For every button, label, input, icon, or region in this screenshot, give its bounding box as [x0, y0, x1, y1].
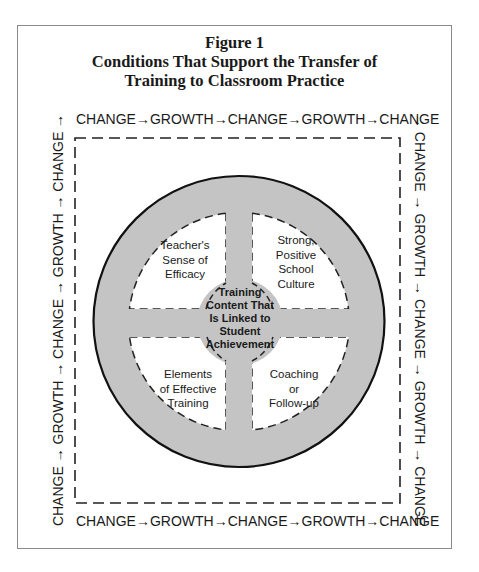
quadrant-label-bottom-left: Elements of Effective Training	[150, 367, 226, 411]
label-line: School	[263, 262, 329, 277]
label-line: Elements	[150, 367, 226, 382]
label-line: Sense of	[150, 253, 220, 268]
label-line: Follow-up	[260, 396, 328, 411]
label-line: Achievement	[190, 338, 290, 351]
quadrant-label-top-left: Teacher's Sense of Efficacy	[150, 238, 220, 282]
label-line: or	[260, 382, 328, 397]
label-line: Training	[190, 286, 290, 299]
label-line: Coaching	[260, 367, 328, 382]
label-line: Teacher's	[150, 238, 220, 253]
label-line: Is Linked to	[190, 312, 290, 325]
label-line: Training	[150, 396, 226, 411]
label-line: Strong,	[263, 233, 329, 248]
label-line: Content That	[190, 299, 290, 312]
label-line: Student	[190, 325, 290, 338]
quadrant-label-top-right: Strong, Positive School Culture	[263, 233, 329, 291]
label-line: Efficacy	[150, 267, 220, 282]
label-line: Positive	[263, 248, 329, 263]
quadrant-label-bottom-right: Coaching or Follow-up	[260, 367, 328, 411]
label-line: of Effective	[150, 382, 226, 397]
hub-label: Training Content That Is Linked to Stude…	[190, 286, 290, 351]
